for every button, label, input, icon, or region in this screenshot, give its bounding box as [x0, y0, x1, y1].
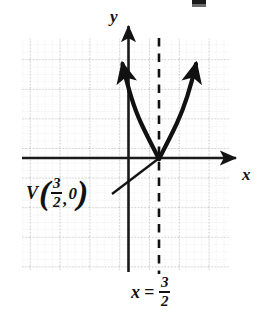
axis-of-symmetry-label: x = 3 2: [131, 275, 171, 309]
axis-sym-equals: =: [144, 283, 154, 301]
vertex-x-fraction: 3 2: [51, 176, 62, 210]
vertex-point-name: V: [26, 184, 38, 202]
axis-sym-fraction: 3 2: [159, 275, 170, 309]
vertex-close-paren: ): [77, 179, 88, 207]
axis-sym-numerator: 3: [160, 275, 170, 290]
axis-sym-denominator: 2: [160, 294, 170, 309]
vertex-x-numerator: 3: [52, 176, 62, 191]
x-axis-label: x: [242, 166, 251, 183]
vertex-x-denominator: 2: [52, 195, 62, 210]
vertex-open-paren: (: [39, 179, 50, 207]
vertex-comma: ,: [63, 191, 67, 210]
vertex-label: V ( 3 2 , 0 ): [26, 176, 88, 210]
y-axis-label: y: [110, 8, 118, 25]
clipped-top-glyph: [192, 0, 206, 4]
graph-figure: y x V ( 3 2 , 0 ) x = 3 2: [0, 0, 267, 317]
coordinate-plane-svg: [0, 0, 267, 317]
vertex-y-value: 0: [69, 185, 78, 202]
axis-sym-variable: x: [131, 283, 140, 301]
